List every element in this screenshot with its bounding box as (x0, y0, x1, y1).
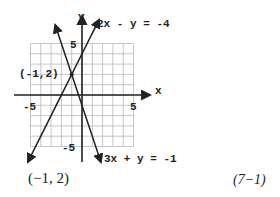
y-axis-label: y (78, 11, 85, 23)
x-axis-label: x (155, 85, 162, 97)
graph: y x 5 -5 -5 5 (-1,2) 2x - y = -4 3x + y … (0, 0, 280, 197)
tick-y-pos: 5 (70, 39, 77, 51)
tick-y-neg: -5 (62, 142, 76, 154)
reference-label: (7−1) (233, 172, 266, 188)
point-label: (-1,2) (19, 68, 59, 80)
lines (28, 20, 101, 162)
intersection-point (70, 72, 74, 76)
axes (14, 16, 150, 162)
line2-label: 3x + y = -1 (104, 153, 177, 165)
line1-label: 2x - y = -4 (97, 18, 170, 30)
tick-x-pos: 5 (130, 101, 137, 113)
answer-caption: (−1, 2) (28, 170, 69, 187)
tick-x-neg: -5 (23, 101, 37, 113)
line-2x-minus-y (28, 20, 99, 162)
